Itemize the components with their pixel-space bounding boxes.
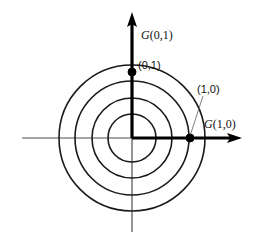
figure-container: G(0,1) G(1,0) (0,1) (1,0) — [0, 0, 258, 245]
x-axis-generator-rest: (1,0) — [213, 117, 236, 131]
point-label-0-1: (0,1) — [138, 59, 161, 71]
y-axis-generator-rest: (0,1) — [150, 28, 173, 42]
y-axis-generator-italic-g: G — [141, 28, 150, 42]
x-axis-generator-label: G(1,0) — [204, 117, 236, 131]
point-dot-1-0 — [186, 134, 194, 142]
point-label-1-0: (1,0) — [197, 83, 220, 95]
y-axis-generator-label: G(0,1) — [141, 28, 173, 42]
x-axis-generator-italic-g: G — [204, 117, 213, 131]
point-dot-0-1 — [128, 68, 136, 76]
concentric-circles-diagram: G(0,1) G(1,0) (0,1) (1,0) — [0, 0, 258, 245]
